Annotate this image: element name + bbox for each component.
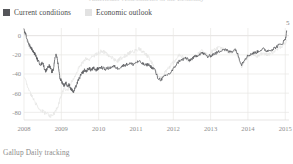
legend-swatch-icon <box>3 9 10 16</box>
legend-item-current-conditions[interactable]: Current conditions <box>3 9 71 17</box>
legend-label: Economic outlook <box>96 9 152 17</box>
x-axis-tick-label: 2013 <box>204 125 218 132</box>
y-axis-tick-label: -20 <box>12 51 21 58</box>
line-chart-svg: 0-20-40-60-80 20082009201020112012201320… <box>0 20 293 142</box>
chart-container: Americans' Assessments of the Economy Cu… <box>0 0 293 164</box>
x-axis-tick-label: 2008 <box>17 125 31 132</box>
x-axis-tick-label: 2009 <box>55 125 69 132</box>
x-axis-tick-label: 2011 <box>129 125 142 132</box>
series-line-economic-outlook <box>24 40 287 118</box>
clipped-title-text: Americans' Assessments of the Economy <box>0 0 293 3</box>
y-axis-ticks: 0-20-40-60-80 <box>12 32 22 116</box>
clipped-title: Americans' Assessments of the Economy <box>0 0 293 6</box>
y-axis-tick-label: 0 <box>18 32 22 39</box>
x-axis-tick-label: 2014 <box>241 125 255 132</box>
series-line-current-conditions <box>24 29 287 93</box>
legend-swatch-icon <box>85 9 92 16</box>
y-axis-tick-label: -60 <box>12 90 21 97</box>
legend-label: Current conditions <box>14 9 71 17</box>
y-axis-tick-label: -80 <box>12 109 21 116</box>
end-value-label: 5 <box>286 20 290 27</box>
x-axis-ticks: 20082009201020112012201320142015 <box>17 125 292 132</box>
legend-item-economic-outlook[interactable]: Economic outlook <box>85 9 152 17</box>
x-axis-tick-label: 2012 <box>167 125 180 132</box>
x-axis-tick-label: 2015 <box>279 125 293 132</box>
annotations-group: 5 <box>286 20 290 27</box>
y-axis-tick-label: -40 <box>12 70 21 77</box>
plot-area: 0-20-40-60-80 20082009201020112012201320… <box>0 20 293 142</box>
x-axis-tick-label: 2010 <box>92 125 106 132</box>
chart-legend: Current conditions Economic outlook <box>3 7 152 18</box>
series-group <box>24 29 287 118</box>
source-note: Gallup Daily tracking <box>3 148 70 157</box>
